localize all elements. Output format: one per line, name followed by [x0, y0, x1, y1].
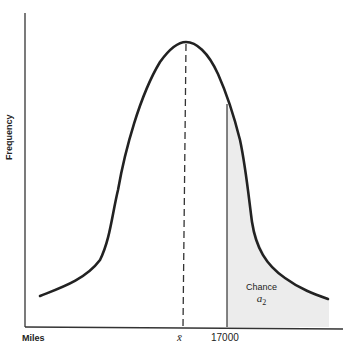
chance-symbol: a2 [246, 293, 277, 308]
mean-dashed-line [183, 44, 186, 327]
y-axis-label: Frequency [4, 114, 14, 160]
chance-annotation: Chance a2 [246, 282, 277, 308]
x-axis-label: Miles [22, 333, 45, 343]
chance-symbol-subscript: 2 [262, 298, 266, 307]
distribution-chart [0, 0, 352, 357]
mean-tick-label: x̄ [177, 331, 182, 343]
bell-curve [40, 42, 328, 299]
x-axis [25, 327, 343, 329]
threshold-tick-label: 17000 [211, 332, 239, 343]
